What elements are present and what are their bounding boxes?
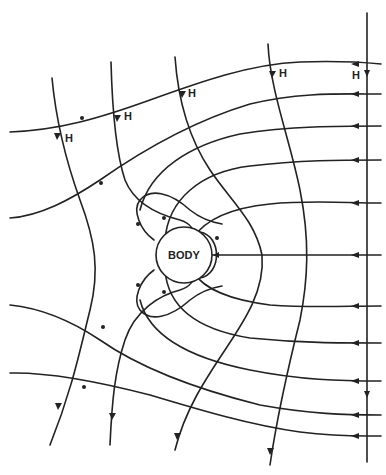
arrow-left-icon: [351, 157, 359, 163]
body: BODY: [156, 227, 212, 283]
field-line-h5: [193, 202, 381, 238]
arrow-left-icon: [351, 433, 359, 439]
arrow-dot-icon: [162, 216, 166, 220]
field-line-h3: [140, 126, 381, 210]
arrow-left-icon: [351, 200, 359, 206]
arrow-dot-icon: [99, 181, 103, 185]
arrow-down-icon: [109, 413, 116, 420]
field-line-h10: [10, 373, 381, 436]
arrow-down-icon: [55, 403, 62, 410]
h-label: H: [124, 110, 132, 122]
arrow-down-icon: [54, 133, 61, 140]
field-line-h8: [140, 300, 381, 381]
arrow-down-icon: [364, 391, 370, 398]
arrow-down-icon: [364, 70, 370, 77]
h-label: H: [352, 69, 360, 81]
arrow-left-icon: [351, 340, 359, 346]
body-label: BODY: [168, 249, 200, 261]
h-label: H: [279, 67, 287, 79]
arrow-left-icon: [351, 91, 359, 97]
arrow-down-icon: [267, 448, 274, 455]
field-line-h4: [165, 160, 381, 240]
arrow-down-icon: [174, 433, 181, 440]
arrow-left-icon: [351, 123, 359, 129]
arrow-left-icon: [351, 252, 359, 258]
arrow-dot-icon: [101, 325, 105, 329]
field-line-diagram: BODY: [0, 0, 386, 475]
arrow-dot-icon: [136, 283, 140, 287]
h-label: H: [188, 87, 196, 99]
field-line-v2b: [110, 272, 195, 445]
arrow-left-icon: [351, 303, 359, 309]
arrow-left-icon: [351, 378, 359, 384]
vertical-field-lines: [50, 13, 367, 465]
arrow-dot-icon: [215, 236, 219, 240]
arrow-down-icon: [269, 71, 276, 78]
arrow-dot-icon: [136, 222, 140, 226]
arrow-dot-icon: [80, 116, 84, 120]
field-lines-svg: BODY: [0, 0, 386, 475]
arrow-dot-icon: [162, 290, 166, 294]
arrow-dot-icon: [82, 385, 86, 389]
arrow-left-icon: [351, 412, 359, 418]
h-label: H: [65, 132, 73, 144]
field-line-h6: [193, 272, 381, 307]
